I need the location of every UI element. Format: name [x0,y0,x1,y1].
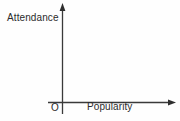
arrow-right-icon [168,100,176,106]
y-axis-label: Attendance [7,12,59,24]
origin-label: O [51,102,59,114]
arrow-up-icon [60,3,66,11]
coordinate-axes-figure: Attendance Popularity O [0,0,180,121]
x-axis-label: Popularity [87,101,132,113]
